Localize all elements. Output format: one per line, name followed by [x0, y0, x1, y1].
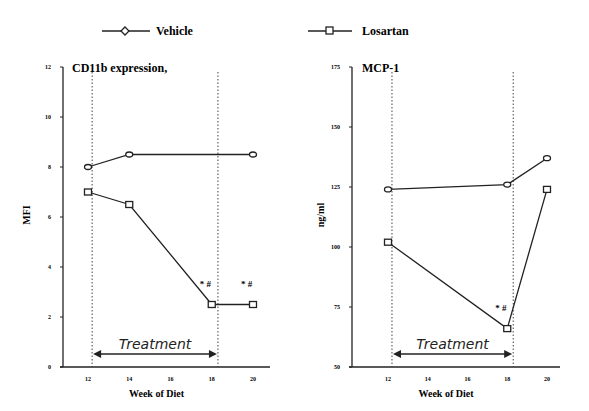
- legend-label-losartan: Losartan: [362, 24, 409, 38]
- y-tick-label: 75: [334, 304, 340, 310]
- series-line-losartan: [88, 192, 253, 305]
- significance-annotation: * #: [200, 279, 212, 289]
- series-line-vehicle: [88, 155, 253, 168]
- diamond-marker: [504, 182, 511, 187]
- legend-label-vehicle: Vehicle: [156, 24, 194, 38]
- x-axis-label: Week of Diet: [419, 388, 475, 399]
- chart-cd11b: 0246810121214161820CD11b expression,Week…: [21, 61, 270, 399]
- chart-mcp1: 50751001251501751214161820MCP-1Week of D…: [315, 61, 560, 399]
- treatment-label: Treatment: [416, 336, 489, 352]
- y-tick-label: 125: [331, 184, 340, 190]
- x-tick-label: 18: [209, 376, 215, 382]
- square-icon: [326, 27, 333, 34]
- y-tick-label: 175: [331, 64, 340, 70]
- diamond-marker: [385, 187, 392, 192]
- x-tick-label: 18: [504, 376, 510, 382]
- x-tick-label: 14: [126, 376, 132, 382]
- diamond-icon: [121, 27, 129, 35]
- diamond-marker: [250, 152, 257, 157]
- square-marker: [544, 186, 551, 192]
- legend-losartan: Losartan: [308, 24, 409, 38]
- square-marker: [208, 302, 215, 308]
- square-marker: [85, 189, 92, 195]
- series-line-losartan: [388, 189, 547, 328]
- x-tick-label: 16: [465, 376, 471, 382]
- significance-annotation: * #: [495, 303, 507, 313]
- legend: Vehicle Losartan: [102, 24, 409, 38]
- square-marker: [504, 326, 511, 332]
- x-tick-label: 14: [425, 376, 431, 382]
- y-axis-label: ng/ml: [315, 203, 326, 228]
- x-tick-label: 12: [385, 376, 391, 382]
- figure: Vehicle Losartan 0246810121214161820CD11…: [0, 0, 589, 411]
- diamond-marker: [126, 152, 133, 157]
- legend-vehicle: Vehicle: [102, 24, 194, 38]
- chart-title: CD11b expression,: [72, 61, 167, 75]
- y-tick-label: 2: [48, 314, 51, 320]
- significance-annotation: * #: [241, 279, 253, 289]
- x-tick-label: 16: [168, 376, 174, 382]
- diamond-marker: [544, 156, 551, 161]
- y-tick-label: 4: [48, 264, 51, 270]
- x-axis-label: Week of Diet: [129, 388, 185, 399]
- series-line-vehicle: [388, 158, 547, 189]
- diamond-marker: [85, 165, 92, 170]
- square-marker: [385, 239, 392, 245]
- chart-title: MCP-1: [362, 61, 399, 75]
- y-tick-label: 12: [45, 64, 51, 70]
- y-tick-label: 8: [48, 164, 51, 170]
- y-tick-label: 150: [331, 124, 340, 130]
- y-axis-label: MFI: [21, 205, 32, 225]
- treatment-label: Treatment: [119, 336, 192, 352]
- square-marker: [126, 202, 133, 208]
- square-marker: [250, 302, 257, 308]
- y-tick-label: 6: [48, 214, 51, 220]
- x-tick-label: 20: [544, 376, 550, 382]
- x-tick-label: 12: [85, 376, 91, 382]
- y-tick-label: 100: [331, 244, 340, 250]
- y-tick-label: 0: [48, 364, 51, 370]
- y-tick-label: 10: [45, 114, 51, 120]
- y-tick-label: 50: [334, 364, 340, 370]
- x-tick-label: 20: [250, 376, 256, 382]
